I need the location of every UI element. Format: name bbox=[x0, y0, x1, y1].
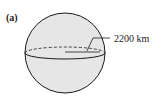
sphere-outline bbox=[25, 13, 105, 93]
radius-dimension-label: 2200 km bbox=[114, 33, 149, 44]
sphere-diagram bbox=[0, 0, 162, 99]
